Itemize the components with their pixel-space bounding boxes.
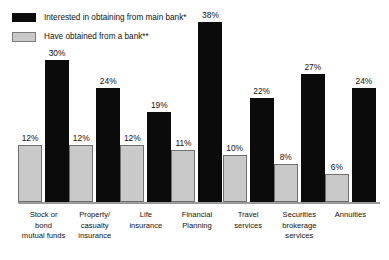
- bar-value-label: 12%: [73, 134, 90, 143]
- bar-wrapper: 12%: [69, 131, 93, 202]
- bar-interested[interactable]: [250, 98, 274, 202]
- legend-label-interested: Interested in obtaining from main bank*: [44, 13, 186, 22]
- bar-value-label: 27%: [304, 63, 321, 72]
- x-axis-category-label: Travelservices: [223, 210, 274, 231]
- bar-wrapper: 8%: [274, 150, 298, 202]
- bar-obtained[interactable]: [69, 145, 93, 202]
- bar-wrapper: 19%: [147, 98, 171, 202]
- bar-wrapper: 6%: [325, 160, 349, 202]
- bar-wrapper: 12%: [120, 131, 144, 202]
- legend-item-interested: Interested in obtaining from main bank*: [12, 11, 186, 24]
- bar-interested[interactable]: [147, 112, 171, 202]
- bar-wrapper: 30%: [45, 46, 69, 202]
- legend-swatch-interested: [12, 13, 36, 22]
- bar-obtained[interactable]: [325, 174, 349, 202]
- bar-value-label: 8%: [280, 153, 292, 162]
- bar-wrapper: 11%: [171, 136, 195, 202]
- bar-group: 10%22%: [223, 0, 274, 202]
- bar-value-label: 24%: [100, 77, 117, 86]
- bar-wrapper: 22%: [250, 84, 274, 202]
- bar-obtained[interactable]: [223, 155, 247, 202]
- bar-value-label: 11%: [175, 139, 191, 148]
- bar-interested[interactable]: [96, 88, 120, 202]
- bar-value-label: 10%: [226, 144, 243, 153]
- bar-interested[interactable]: [301, 74, 325, 202]
- bar-wrapper: 38%: [198, 8, 222, 202]
- bar-value-label: 12%: [22, 134, 39, 143]
- bar-value-label: 12%: [124, 134, 141, 143]
- bar-wrapper: 12%: [18, 131, 42, 202]
- x-axis-category-label: Stock orbondmutual funds: [18, 210, 69, 242]
- bar-interested[interactable]: [45, 60, 69, 202]
- bar-value-label: 22%: [253, 87, 270, 96]
- bar-group: 8%27%: [274, 0, 325, 202]
- bar-value-label: 6%: [331, 163, 343, 172]
- x-axis-category-label: FinancialPlanning: [171, 210, 222, 231]
- x-axis-category-label: Lifeinsurance: [120, 210, 171, 231]
- bar-interested[interactable]: [198, 22, 222, 202]
- x-axis-category-label: Property/casualtyinsurance: [69, 210, 120, 242]
- legend-swatch-obtained: [12, 32, 36, 42]
- legend-label-obtained: Have obtained from a bank**: [44, 32, 149, 41]
- bar-chart: Interested in obtaining from main bank* …: [0, 0, 389, 260]
- bar-value-label: 24%: [356, 77, 373, 86]
- bar-value-label: 30%: [49, 49, 66, 58]
- bar-obtained[interactable]: [171, 150, 195, 202]
- bar-obtained[interactable]: [120, 145, 144, 202]
- bar-wrapper: 24%: [352, 74, 376, 202]
- chart-legend: Interested in obtaining from main bank* …: [12, 11, 186, 49]
- legend-item-obtained: Have obtained from a bank**: [12, 30, 186, 43]
- bar-interested[interactable]: [352, 88, 376, 202]
- x-axis-baseline: [18, 202, 380, 204]
- bar-obtained[interactable]: [18, 145, 42, 202]
- bar-value-label: 38%: [202, 11, 219, 20]
- bar-obtained[interactable]: [274, 164, 298, 202]
- bar-wrapper: 10%: [223, 141, 247, 202]
- bar-value-label: 19%: [151, 101, 168, 110]
- x-axis-category-label: Securitiesbrokerageservices: [274, 210, 325, 242]
- bar-wrapper: 27%: [301, 60, 325, 202]
- bar-group: 6%24%: [325, 0, 376, 202]
- x-axis-category-label: Annuities: [325, 210, 376, 221]
- x-axis-labels: Stock orbondmutual fundsProperty/casualt…: [18, 210, 380, 260]
- bar-wrapper: 24%: [96, 74, 120, 202]
